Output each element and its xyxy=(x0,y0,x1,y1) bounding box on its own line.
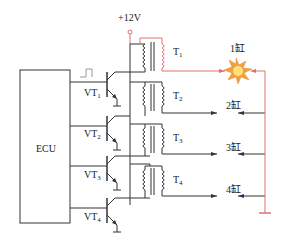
t1-label: T1 xyxy=(173,46,183,59)
ecu-label: ECU xyxy=(36,143,57,154)
supply-label: +12V xyxy=(118,12,142,23)
transistor-vt1: VT1 xyxy=(70,72,130,106)
transformer-t2: T2 xyxy=(130,82,217,116)
cylinder-3-label: 3缸 xyxy=(226,141,241,153)
transistor-vt4: VT4 xyxy=(70,198,150,232)
t4-label: T4 xyxy=(173,174,183,187)
transformer-t1: T1 xyxy=(130,38,225,73)
transformer-t4: T4 xyxy=(130,164,217,198)
t3-label: T3 xyxy=(173,132,183,145)
spark-icon xyxy=(224,58,252,84)
pulse-signal-icon xyxy=(80,69,92,77)
ignition-circuit-diagram: +12V ECU VT1 VT2 xyxy=(0,0,284,248)
vt2-label: VT2 xyxy=(84,128,101,141)
transistor-vt3: VT3 xyxy=(70,156,150,190)
t2-label: T2 xyxy=(173,90,183,103)
vt3-label: VT3 xyxy=(84,169,101,182)
ecu-block: ECU xyxy=(20,70,70,223)
cylinder-4-label: 4缸 xyxy=(226,183,241,195)
transistor-vt2: VT2 xyxy=(70,116,130,150)
vt4-label: VT4 xyxy=(84,211,101,224)
cylinder-1-label: 1缸 xyxy=(230,42,245,54)
t1-secondary-coil xyxy=(162,44,164,68)
transformer-t3: T3 xyxy=(130,124,217,156)
vt1-label: VT1 xyxy=(84,87,101,100)
t1-primary-coil xyxy=(143,44,145,68)
supply-terminal-circle xyxy=(128,30,132,34)
supply-terminal: +12V xyxy=(118,12,142,34)
cylinder-2-label: 2缸 xyxy=(226,99,241,111)
return-path xyxy=(238,69,271,213)
